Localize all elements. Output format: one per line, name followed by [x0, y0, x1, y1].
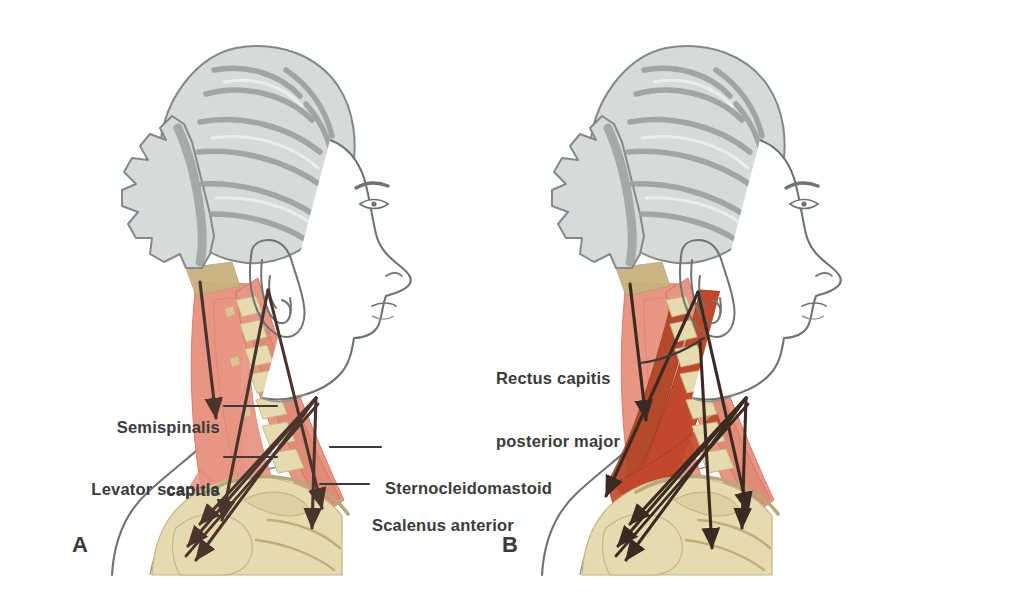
label-rectus-capitis-posterior-major-line-1: Rectus capitis [496, 368, 696, 389]
label-levator-scapula: Levator scapula [50, 437, 220, 542]
panel-letter-a: A [72, 532, 88, 558]
eyebrow-b [786, 183, 818, 188]
label-semispinalis-capitis-line-1: Semispinalis [68, 417, 220, 438]
anatomy-figure: Semispinalis capitis Levator scapula Ste… [0, 0, 1034, 611]
panel-letter-b: B [502, 532, 518, 558]
pupil-b [801, 201, 806, 206]
pupil-a [371, 201, 376, 206]
label-rectus-capitis-posterior-major: Rectus capitis posterior major [496, 326, 696, 494]
label-scalenus-anterior-line-1: Scalenus anterior [372, 515, 582, 536]
label-rectus-capitis-posterior-major-line-2: posterior major [496, 431, 696, 452]
label-levator-scapula-line-1: Levator scapula [50, 479, 220, 500]
eyebrow-a [356, 183, 388, 188]
